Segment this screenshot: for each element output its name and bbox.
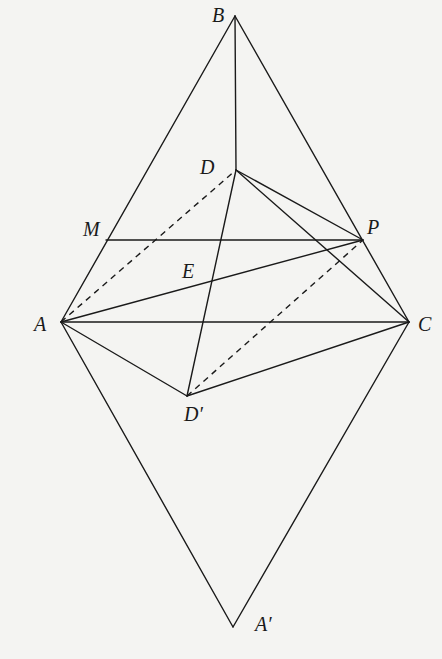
label-P: P bbox=[366, 216, 379, 238]
segment-C-Ap bbox=[233, 322, 409, 627]
segment-A-Ap bbox=[61, 322, 233, 627]
segment-Dp-C bbox=[187, 322, 409, 396]
segment-A-D bbox=[61, 170, 236, 322]
segment-A-Dp bbox=[61, 322, 187, 396]
label-A: A bbox=[32, 313, 47, 335]
segment-D-Dp bbox=[187, 170, 236, 396]
segment-D-P bbox=[236, 170, 363, 240]
label-M: M bbox=[82, 218, 101, 240]
label-E: E bbox=[181, 260, 194, 282]
geometry-diagram: B D M P E A C D′ A′ bbox=[0, 0, 442, 659]
point-labels: B D M P E A C D′ A′ bbox=[32, 4, 432, 635]
solid-segments bbox=[61, 16, 409, 627]
label-B: B bbox=[212, 4, 224, 26]
label-D-prime: D′ bbox=[183, 403, 203, 425]
segment-B-D bbox=[235, 16, 236, 170]
label-C: C bbox=[418, 313, 432, 335]
label-A-prime: A′ bbox=[253, 613, 272, 635]
segment-D-C bbox=[236, 170, 409, 322]
label-D: D bbox=[199, 156, 215, 178]
